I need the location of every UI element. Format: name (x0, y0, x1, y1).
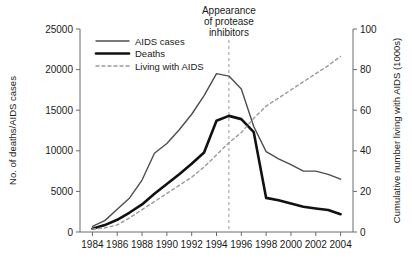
legend-label: Deaths (135, 48, 165, 59)
series-line-aids-cases (92, 74, 340, 227)
chart-canvas: 0500010000150002000025000 020406080100 1… (0, 0, 412, 273)
x-tick-label: 1996 (230, 239, 253, 250)
x-axis-ticks: 1984198619881990199219941996199820002002… (81, 232, 352, 250)
x-tick-label: 2002 (305, 239, 328, 250)
right-tick-label: 0 (360, 227, 366, 238)
legend-label: Living with AIDS (135, 61, 204, 72)
x-tick-label: 2000 (280, 239, 303, 250)
right-tick-label: 20 (360, 186, 372, 197)
chart-legend: AIDS casesDeathsLiving with AIDS (96, 36, 204, 72)
plot-frame (80, 29, 353, 232)
left-tick-label: 0 (67, 227, 73, 238)
right-axis-title: Cumulative number living with AIDS (1000… (391, 38, 402, 223)
right-tick-label: 60 (360, 105, 372, 116)
left-tick-label: 5000 (51, 186, 74, 197)
x-tick-label: 1986 (106, 239, 129, 250)
x-tick-label: 1994 (205, 239, 228, 250)
series-line-living-with-aids (92, 56, 340, 229)
left-tick-label: 20000 (45, 64, 73, 75)
left-tick-label: 15000 (45, 105, 73, 116)
right-tick-label: 40 (360, 145, 372, 156)
left-tick-label: 10000 (45, 145, 73, 156)
left-tick-label: 25000 (45, 24, 73, 35)
x-tick-label: 1988 (131, 239, 154, 250)
left-axis-title: No. of deaths/AIDS cases (7, 76, 18, 185)
aids-epidemiology-chart: 0500010000150002000025000 020406080100 1… (0, 0, 412, 273)
x-tick-label: 1998 (255, 239, 278, 250)
legend-label: AIDS cases (135, 36, 185, 47)
right-tick-label: 80 (360, 64, 372, 75)
left-axis-ticks: 0500010000150002000025000 (45, 24, 80, 238)
series-line-deaths (92, 116, 340, 229)
x-tick-label: 1992 (181, 239, 204, 250)
x-tick-label: 2004 (329, 239, 352, 250)
annotation-text-line: inhibitors (209, 27, 249, 38)
x-tick-label: 1990 (156, 239, 179, 250)
right-tick-label: 100 (360, 24, 377, 35)
chart-annotations: Appearanceof proteaseinhibitors (202, 5, 256, 232)
x-tick-label: 1984 (81, 239, 104, 250)
annotation-text-line: of protease (204, 16, 254, 27)
right-axis-ticks: 020406080100 (353, 24, 377, 238)
annotation-text-line: Appearance (202, 5, 256, 16)
data-series (92, 56, 340, 229)
